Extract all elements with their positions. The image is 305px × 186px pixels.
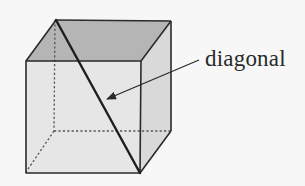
cube-illustration	[0, 0, 305, 186]
edge-top-back	[56, 20, 171, 21]
cube-diagram: diagonal	[0, 0, 305, 186]
front-face	[26, 61, 141, 173]
diagonal-label: diagonal	[205, 47, 286, 70]
